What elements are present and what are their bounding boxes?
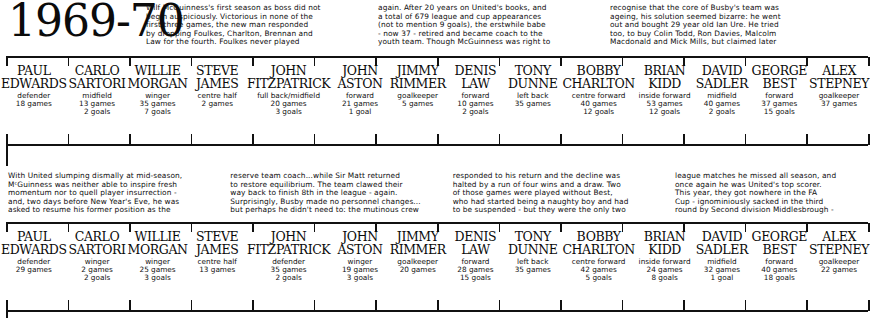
player-name: BOBBY CHARLTON [562,231,635,256]
player-stats: inside forward 24 games 8 goals [637,258,692,282]
player-name: STEVE JAMES [190,65,245,90]
player-name: ALEX STEPNEY [809,231,869,256]
axis-tick-bottom [868,134,870,145]
player-stats: midfield 40 games 2 goals [694,92,749,116]
player-list: PAUL EDWARDSdefender 18 gamesCARLO SARTO… [0,65,870,116]
player-card[interactable]: TONY DUNNEleft back 35 games [504,231,561,282]
player-list: PAUL EDWARDSdefender 29 gamesCARLO SARTO… [0,231,870,282]
player-stats: winger 35 games 7 goals [128,92,188,116]
player-stats: full back/midfield 20 games 3 goals [247,92,330,116]
player-name: ALEX STEPNEY [809,65,869,90]
player-stats: forward 21 games 1 goal [332,92,387,116]
player-name: TONY DUNNE [505,65,560,90]
player-stats: left back 35 games [505,92,560,108]
player-card[interactable]: BOBBY CHARLTONcentre forward 42 games 5 … [561,231,636,282]
axis-tick-bottom [375,300,377,311]
axis-tick-bottom [437,300,439,311]
player-stats: defender 35 games 2 goals [247,258,330,282]
player-name: PAUL EDWARDS [1,231,67,256]
player-card[interactable]: ALEX STEPNEYgoalkeeper 22 games [808,231,870,282]
player-stats: defender 18 games [1,92,67,108]
player-name: STEVE JAMES [190,231,245,256]
player-name: GEORGE BEST [752,65,807,90]
player-name: CARLO SARTORI [69,231,126,256]
player-name: JOHN FITZPATRICK [247,231,330,256]
axis-tick-bottom [252,300,254,311]
player-card[interactable]: GEORGE BESTforward 40 games 18 goals [751,231,808,282]
player-card[interactable]: WILLIE MORGANwinger 35 games 7 goals [127,65,189,116]
player-card[interactable]: TONY DUNNEleft back 35 games [504,65,561,116]
player-card[interactable]: CARLO SARTORImidfield 13 games 2 goals [68,65,127,116]
axis-tick-bottom [314,134,316,145]
player-card[interactable]: BOBBY CHARLTONcentre forward 40 games 12… [561,65,636,116]
player-card[interactable]: WILLIE MORGANwinger 25 games 3 goals [127,231,189,282]
player-stats: left back 35 games [505,258,560,274]
axis-tick-bottom [68,300,70,311]
player-stats: forward 37 games 15 goals [752,92,807,116]
axis-tick-bottom [129,300,131,311]
player-stats: forward 28 games 15 goals [448,258,503,282]
player-name: JOHN ASTON [332,231,387,256]
axis-tick-bottom [622,134,624,145]
player-name: DENIS LAW [448,65,503,90]
axis-left-stem [6,310,8,318]
player-card[interactable]: JOHN ASTONforward 21 games 1 goal [331,65,388,116]
axis-tick-bottom [499,134,501,145]
prose-block-middle: With United slumping dismally at mid-sea… [8,172,870,215]
player-card[interactable]: BRIAN KIDDinside forward 53 games 12 goa… [636,65,693,116]
player-card[interactable]: PAUL EDWARDSdefender 29 games [0,231,68,282]
axis-tick-bottom [806,134,808,145]
player-card[interactable]: DENIS LAWforward 10 games 2 goals [447,65,504,116]
axis-tick-bottom [683,134,685,145]
prose-column: again. After 20 years on United's books,… [378,4,610,47]
player-stats: centre half 2 games [190,92,245,108]
player-card[interactable]: JOHN FITZPATRICKfull back/midfield 20 ga… [246,65,331,116]
axis-tick-bottom [868,300,870,311]
axis-tick-bottom [191,134,193,145]
axis-tick-bottom [560,134,562,145]
player-name: PAUL EDWARDS [1,65,67,90]
player-card[interactable]: ALEX STEPNEYgoalkeeper 37 games [808,65,870,116]
player-card[interactable]: PAUL EDWARDSdefender 18 games [0,65,68,116]
prose-block-top: Wilf McGuinness's first season as boss d… [146,4,870,47]
player-card[interactable]: DAVID SADLERmidfield 40 games 2 goals [693,65,750,116]
player-card[interactable]: JIMMY RIMMERgoalkeeper 20 games [389,231,447,282]
player-stats: midfield 13 games 2 goals [69,92,126,116]
player-stats: winger 25 games 3 goals [128,258,188,282]
player-card[interactable]: JOHN FITZPATRICKdefender 35 games 2 goal… [246,231,331,282]
axis-tick-bottom [499,300,501,311]
player-stats: goalkeeper 22 games [809,258,869,274]
axis-tick-bottom [191,300,193,311]
player-stats: forward 10 games 2 goals [448,92,503,116]
player-name: WILLIE MORGAN [128,231,188,256]
player-stats: midfield 32 games 1 goal [694,258,749,282]
axis-tick-bottom [560,300,562,311]
player-stats: centre half 13 games [190,258,245,274]
player-name: DENIS LAW [448,231,503,256]
player-card[interactable]: JOHN ASTONwinger 19 games 3 goals [331,231,388,282]
player-name: JIMMY RIMMER [390,65,446,90]
axis-tick-bottom [622,300,624,311]
player-name: BRIAN KIDD [637,231,692,256]
player-name: BRIAN KIDD [637,65,692,90]
player-card[interactable]: STEVE JAMEScentre half 2 games [189,65,246,116]
player-stats: forward 40 games 18 goals [752,258,807,282]
player-card[interactable]: GEORGE BESTforward 37 games 15 goals [751,65,808,116]
player-card[interactable]: JIMMY RIMMERgoalkeeper 5 games [389,65,447,116]
player-card[interactable]: BRIAN KIDDinside forward 24 games 8 goal… [636,231,693,282]
prose-column: Wilf McGuinness's first season as boss d… [146,4,378,47]
player-card[interactable]: STEVE JAMEScentre half 13 games [189,231,246,282]
axis-tick-bottom [745,300,747,311]
player-name: TONY DUNNE [505,231,560,256]
player-name: GEORGE BEST [752,231,807,256]
axis-tick-bottom [252,134,254,145]
player-card[interactable]: CARLO SARTORIwinger 2 games 2 goals [68,231,127,282]
axis-tick-bottom [745,134,747,145]
player-card[interactable]: DENIS LAWforward 28 games 15 goals [447,231,504,282]
axis-tick-bottom [806,300,808,311]
player-card[interactable]: DAVID SADLERmidfield 32 games 1 goal [693,231,750,282]
prose-column: reserve team coach...while Sir Matt retu… [230,172,452,215]
prose-column: league matches he missed all season, and… [675,172,870,215]
player-stats: winger 19 games 3 goals [332,258,387,282]
player-stats: centre forward 40 games 12 goals [562,92,635,116]
